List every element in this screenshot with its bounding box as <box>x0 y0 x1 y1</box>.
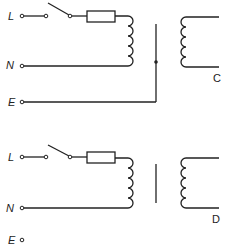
terminal-n <box>20 64 24 68</box>
junction-dot <box>154 60 158 64</box>
terminal-label-l: L <box>8 151 14 163</box>
terminal-e <box>20 100 24 104</box>
terminal-l <box>20 155 24 159</box>
switch-blade <box>48 145 69 156</box>
terminal-n <box>20 206 24 210</box>
transformer-diagrams: L N E C L N E D <box>0 0 228 248</box>
primary-coil <box>115 16 133 66</box>
caption-c: C <box>213 72 221 84</box>
caption-d: D <box>212 213 220 225</box>
terminal-label-e: E <box>8 234 16 246</box>
switch-contact <box>44 155 48 159</box>
terminal-e <box>20 238 24 242</box>
terminal-l <box>20 14 24 18</box>
terminal-label-n: N <box>6 59 14 71</box>
secondary-coil <box>181 17 219 67</box>
terminal-label-l: L <box>8 10 14 22</box>
primary-coil <box>115 158 133 208</box>
terminal-label-e: E <box>8 96 16 108</box>
diagram-d: L N E D <box>6 145 220 246</box>
fuse <box>87 11 115 22</box>
diagram-c: L N E C <box>6 3 221 108</box>
secondary-coil <box>181 158 219 208</box>
switch-contact <box>44 14 48 18</box>
terminal-label-n: N <box>6 202 14 214</box>
fuse <box>87 152 115 163</box>
switch-blade <box>48 3 69 15</box>
